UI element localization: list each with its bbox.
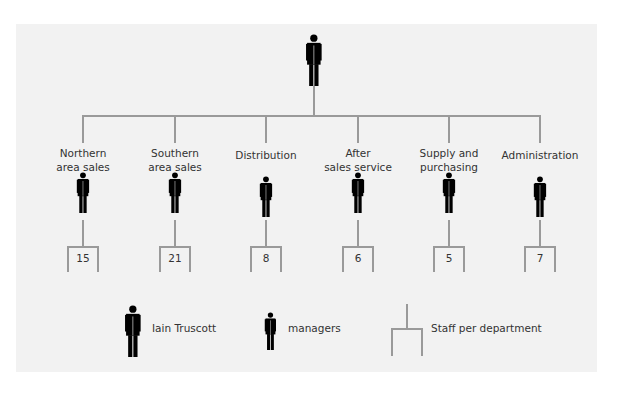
dept-drop-line xyxy=(174,117,176,143)
legend-label-staff: Staff per department xyxy=(431,322,542,334)
dept-drop-line xyxy=(82,117,84,143)
staff-bracket-stem xyxy=(265,220,267,246)
department-bar xyxy=(82,115,541,117)
legend-bracket-stem xyxy=(406,304,408,328)
staff-bracket-stem xyxy=(448,220,450,246)
staff-bracket-top xyxy=(67,246,99,248)
legend-label-managers: managers xyxy=(288,322,341,334)
dept-drop-line xyxy=(539,117,541,143)
legend-bracket-right-leg xyxy=(421,328,423,356)
staff-bracket-top xyxy=(250,246,282,248)
staff-bracket-stem xyxy=(174,220,176,246)
staff-count: 7 xyxy=(525,252,555,264)
manager-person-icon xyxy=(351,172,365,213)
manager-person-icon xyxy=(442,172,456,213)
legend-bracket-left-leg xyxy=(391,328,393,356)
staff-count: 15 xyxy=(68,252,98,264)
legend-top-person-icon xyxy=(124,305,142,357)
staff-count: 21 xyxy=(160,252,190,264)
legend-manager-person-icon xyxy=(264,312,277,350)
dept-drop-line xyxy=(265,117,267,143)
manager-person-icon xyxy=(76,172,90,213)
dept-drop-line xyxy=(357,117,359,143)
staff-bracket-top xyxy=(433,246,465,248)
person-icon-top xyxy=(305,34,323,86)
manager-person-icon xyxy=(259,176,273,217)
manager-person-icon xyxy=(168,172,182,213)
trunk-line xyxy=(313,86,315,116)
staff-bracket-top xyxy=(524,246,556,248)
staff-bracket-top xyxy=(342,246,374,248)
staff-bracket-stem xyxy=(82,220,84,246)
legend-label-top: Iain Truscott xyxy=(152,322,216,334)
dept-drop-line xyxy=(448,117,450,143)
staff-count: 8 xyxy=(251,252,281,264)
department-label-line: Administration xyxy=(485,148,595,162)
staff-bracket-stem xyxy=(539,220,541,246)
staff-count: 5 xyxy=(434,252,464,264)
department-label: Administration xyxy=(485,148,595,162)
manager-person-icon xyxy=(533,176,547,217)
staff-count: 6 xyxy=(343,252,373,264)
staff-bracket-top xyxy=(159,246,191,248)
legend-bracket-top xyxy=(391,328,423,330)
staff-bracket-stem xyxy=(357,220,359,246)
